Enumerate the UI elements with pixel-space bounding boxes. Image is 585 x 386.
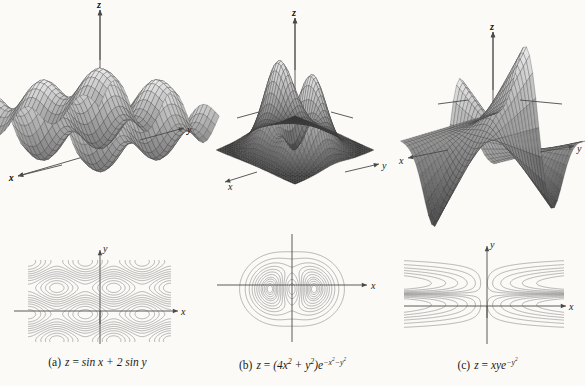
contour-line [125,260,159,272]
caption-a-equals: = [72,356,79,368]
contour-line [537,299,564,313]
contour-line [45,333,68,342]
contour-line [73,260,98,269]
caption-b-equals: = [264,359,271,371]
contour-line [163,336,171,342]
contour-line [28,298,171,307]
contour-line [125,304,159,324]
y-axis-line-head [98,250,103,255]
contour-line [267,285,272,292]
x-axis-line-top-head [18,173,24,177]
x-axis-line-head [173,309,178,314]
contour-line [28,306,41,322]
contour-plot-b: x [195,232,390,350]
contour-line [149,276,171,300]
z-axis-line-top-head [491,32,496,37]
surface-c-canvas: zzyx [390,0,585,215]
contour-line [36,276,78,300]
x-axis-line-head [408,155,414,160]
contour-line [102,281,125,295]
contour-a-lines [28,260,171,342]
contour-line [311,285,316,292]
caption-c-lhs: z [474,359,478,371]
contour-line [130,306,155,322]
x-axis-line-top [18,165,62,176]
y-axis-line [345,164,379,172]
y-axis-line-head [485,246,490,251]
textbook-figure: xyzzyx zzyx zzyx xy x xy (a)z = sin x + … [0,0,585,386]
contour-line [50,336,64,342]
contour-line [28,272,171,281]
y-axis-label: y [489,239,495,250]
x-axis-label: x [180,306,186,317]
contour-line [28,324,171,333]
caption-a: (a)z = sin x + 2 sin y [0,356,195,368]
caption-c-label: (c) [457,359,470,371]
contour-line [107,336,121,342]
z-axis-label-top: z [96,0,101,10]
contour-line [404,273,446,291]
x-axis-line-head [362,283,367,288]
caption-a-lhs: z [65,356,69,368]
contour-line [68,304,102,324]
z-axis-line-top-head [98,10,103,15]
y-axis-label: y [102,243,108,254]
contour-line [28,295,171,304]
contour-line [404,276,431,290]
x-axis-label-top: x [8,172,14,183]
contour-line [73,306,98,322]
x-axis-label: x [370,280,376,291]
y-axis-far-line [237,112,259,118]
contour-plot-c: xy [390,232,585,350]
contour-line [92,276,134,300]
surface-plot-c: zzyx [390,0,585,215]
y-axis-label-top: y [186,124,192,135]
contour-line [28,260,41,269]
contour-a-canvas: xy [0,232,195,350]
contour-line [120,302,165,327]
contour-plot-a: xy [0,232,195,350]
z-axis-label-top: z [291,7,296,18]
caption-a-label: (a) [48,356,61,368]
contour-line [45,281,68,295]
contour-line [404,299,431,313]
contour-line [28,304,45,324]
contour-line [28,269,171,278]
contour-line [50,283,64,292]
contour-line [155,331,171,342]
contour-line [522,273,564,291]
contour-line [28,302,51,327]
x-axis-line-head [561,304,566,309]
contour-line [102,333,125,342]
caption-b-label: (b) [239,359,252,371]
y-axis-label: y [576,143,582,154]
contour-line [68,260,102,272]
caption-c: (c)z = xye−y2 [390,356,585,371]
contour-line [28,260,36,266]
contour-line [63,302,108,327]
z-axis-label-top: z [489,21,494,32]
contour-b-canvas: x [195,232,390,350]
x-axis-label: x [227,181,233,192]
contour-line [163,283,171,292]
contour-line [130,260,155,269]
surface-b-canvas: zzyx [195,0,390,215]
caption-b: (b)z = (4x2 + y2)e−x2−y2 [195,356,390,371]
x-axis-far-line [331,112,353,118]
y-axis-label: y [381,160,387,171]
x-axis-label: x [398,155,404,166]
x-axis-label: x [568,301,574,312]
surface-plot-a: xyzzyx [0,0,195,215]
contour-c-canvas: xy [390,232,585,350]
caption-c-equals: = [482,359,489,371]
surface-plot-b: zzyx [195,0,390,215]
contour-line [28,322,171,331]
contour-line [537,276,564,290]
z-axis-line-top-head [293,18,298,23]
surface-a-mesh [0,68,219,172]
y-axis-line-head [373,163,379,167]
contour-line [78,260,92,266]
contour-line [263,279,277,299]
contour-line [159,281,171,295]
contour-line [307,279,321,299]
